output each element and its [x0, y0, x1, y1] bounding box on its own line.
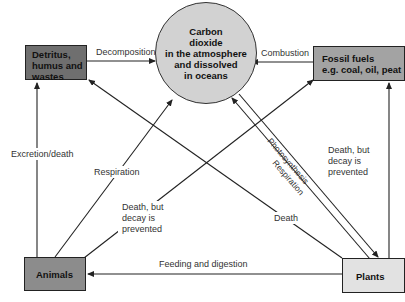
co2-label-line: dioxide — [165, 37, 247, 48]
label-line: prevented — [328, 167, 370, 178]
combustion-label: Combustion — [261, 48, 309, 59]
fossil-fuels-node: Fossil fuels e.g. coal, oil, peat — [313, 46, 405, 81]
respiration-animals-label: Respiration — [94, 167, 140, 178]
death-plants-label: Death — [274, 213, 298, 224]
label-line: prevented — [122, 224, 164, 235]
death-decay-plants-label: Death, but decay is prevented — [328, 145, 370, 178]
detritus-label-line: wastes — [32, 71, 86, 82]
decomposition-label: Decomposition — [96, 47, 156, 58]
plants-label: Plants — [356, 271, 404, 282]
co2-label-line: Carbon — [165, 26, 247, 37]
animals-label: Animals — [36, 269, 85, 280]
label-line: Death, but — [122, 202, 164, 213]
label-line: Death, but — [328, 145, 370, 156]
fossil-label-line: Fossil fuels — [322, 53, 404, 64]
excretion-label: Excretion/death — [11, 149, 74, 160]
death-decay-animals-label: Death, but decay is prevented — [122, 202, 164, 235]
fossil-label-line: e.g. coal, oil, peat — [322, 64, 404, 75]
label-line: decay is — [328, 156, 370, 167]
feeding-label: Feeding and digestion — [159, 259, 248, 270]
co2-node: Carbon dioxide in the atmosphere and dis… — [155, 2, 257, 104]
detritus-label-line: Detritus, — [32, 49, 86, 60]
plants-node: Plants — [342, 258, 405, 293]
label-line: decay is — [122, 213, 164, 224]
detritus-label-line: humus and — [32, 60, 86, 71]
animals-node: Animals — [24, 257, 86, 291]
co2-label-line: and dissolved — [165, 59, 247, 70]
co2-label-line: in oceans — [165, 70, 247, 81]
co2-label-line: in the atmosphere — [165, 48, 247, 59]
detritus-node: Detritus, humus and wastes — [25, 45, 87, 80]
